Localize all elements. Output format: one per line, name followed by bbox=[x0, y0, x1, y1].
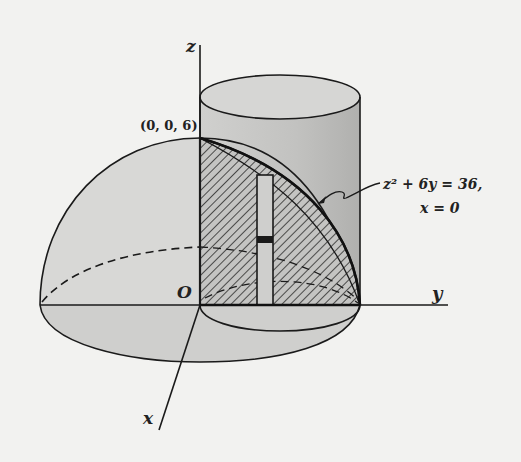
hemisphere-base bbox=[40, 305, 360, 362]
y-axis-label: y bbox=[432, 283, 442, 304]
equation-label-line2: x = 0 bbox=[420, 200, 460, 216]
hemisphere-dome bbox=[40, 138, 200, 305]
point-label-0-0-6: (0, 0, 6) bbox=[140, 118, 198, 133]
cylinder-top bbox=[200, 75, 360, 119]
equation-label-line1: z² + 6y = 36, bbox=[383, 176, 482, 192]
figure-canvas: z y x O (0, 0, 6) z² + 6y = 36, x = 0 bbox=[0, 0, 521, 462]
origin-label: O bbox=[177, 282, 192, 302]
diagram-svg bbox=[0, 0, 521, 462]
z-axis-label: z bbox=[186, 36, 196, 56]
x-axis-label: x bbox=[143, 408, 153, 428]
strip-dark-band bbox=[257, 236, 273, 243]
